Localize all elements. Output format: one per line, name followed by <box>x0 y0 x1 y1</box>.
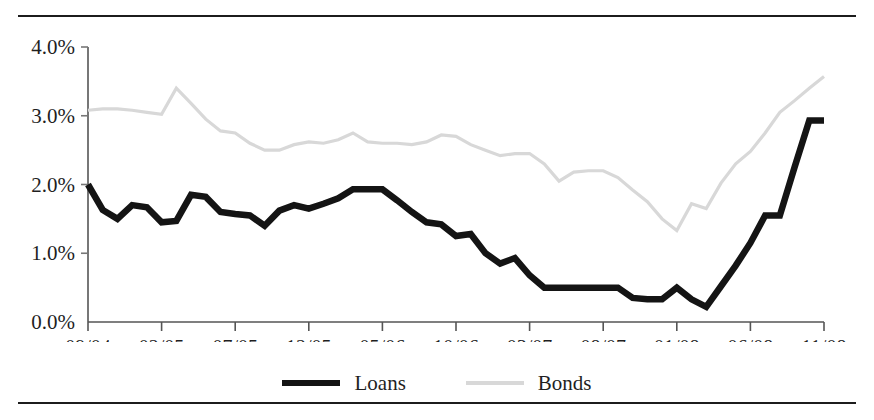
y-tick-label: 3.0% <box>31 104 75 128</box>
legend-item-loans: Loans <box>282 373 405 394</box>
legend-item-bonds: Bonds <box>466 373 592 394</box>
x-tick-label: 12/05 <box>286 336 332 342</box>
plot-area: 0.0% 1.0% 2.0% 3.0% 4.0% 09/0402/0507/05… <box>0 22 874 342</box>
legend-label-loans: Loans <box>354 373 405 394</box>
x-axis-tick-labels: 09/0402/0507/0512/0505/0610/0603/0708/07… <box>65 336 846 342</box>
series-line-loans <box>88 121 824 307</box>
x-tick-label: 08/07 <box>580 336 626 342</box>
y-tick-label: 1.0% <box>31 241 75 265</box>
chart-legend: Loans Bonds <box>0 368 874 398</box>
top-rule <box>18 15 856 17</box>
y-axis-tick-labels: 0.0% 1.0% 2.0% 3.0% 4.0% <box>31 35 75 334</box>
x-tick-label: 03/07 <box>507 336 553 342</box>
x-tick-label: 10/06 <box>433 336 479 342</box>
x-tick-label: 07/05 <box>212 336 258 342</box>
line-chart: 0.0% 1.0% 2.0% 3.0% 4.0% 09/0402/0507/05… <box>0 22 874 342</box>
legend-label-bonds: Bonds <box>538 373 592 394</box>
legend-swatch-loans <box>282 380 340 386</box>
series-line-bonds <box>88 77 824 231</box>
axes <box>81 47 824 331</box>
bottom-rule <box>18 402 856 404</box>
legend-swatch-bonds <box>466 381 524 385</box>
y-tick-label: 2.0% <box>31 173 75 197</box>
y-tick-label: 4.0% <box>31 35 75 59</box>
x-tick-label: 06/08 <box>728 336 774 342</box>
series-lines <box>88 77 824 307</box>
y-tick-label: 0.0% <box>31 310 75 334</box>
x-tick-label: 01/08 <box>654 336 700 342</box>
x-tick-label: 05/06 <box>360 336 406 342</box>
figure: 0.0% 1.0% 2.0% 3.0% 4.0% 09/0402/0507/05… <box>0 0 874 420</box>
x-tick-label: 11/08 <box>802 336 847 342</box>
x-tick-label: 02/05 <box>139 336 185 342</box>
x-tick-label: 09/04 <box>65 336 111 342</box>
